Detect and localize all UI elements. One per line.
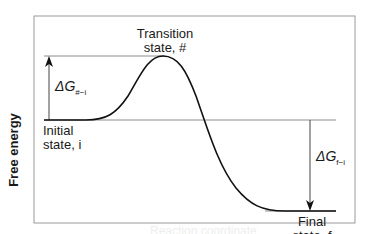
delta-g-activation-label: ΔG#−i <box>55 78 86 97</box>
delta-g-reaction-label: ΔGf−i <box>316 148 345 167</box>
initial-state-label: Initial state, i <box>43 124 81 152</box>
transition-state-line1: Transition <box>125 27 205 41</box>
initial-state-line2: state, i <box>43 138 81 152</box>
initial-state-line1: Initial <box>43 124 81 138</box>
transition-state-label: Transition state, # <box>125 27 205 55</box>
final-state-line1: Final <box>283 215 341 229</box>
final-state-label: Final state, f <box>283 215 341 234</box>
transition-state-line2: state, # <box>125 41 205 55</box>
delta-g-reaction-symbol: ΔG <box>316 148 336 164</box>
final-state-line2: state, f <box>283 229 341 234</box>
energy-curve <box>44 56 336 211</box>
delta-g-activation-subscript: #−i <box>75 88 86 97</box>
x-axis-label: Reaction coordinate <box>150 224 257 234</box>
y-axis-label: Free energy <box>6 100 20 200</box>
delta-g-reaction-subscript: f−i <box>336 158 345 167</box>
delta-g-activation-symbol: ΔG <box>55 78 75 94</box>
